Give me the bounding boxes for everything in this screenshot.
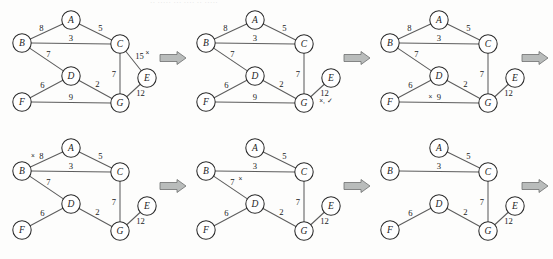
edge-AB [398,24,430,39]
edge-AC [447,24,479,40]
node-label-G: G [485,226,492,236]
edge-weight-BC: 3 [253,33,257,43]
edge-weight-DG: 2 [279,207,283,217]
edge-weight-AC: 5 [282,151,286,161]
step-arrow-2 [344,52,370,65]
edge-weight-AC: 5 [466,151,470,161]
edge-BC [399,171,479,172]
node-label-G: G [117,98,124,108]
edge-weight-BD: 7 [414,49,419,59]
edge-AB [214,24,246,39]
edge-weight-DG: 2 [463,79,467,89]
node-label-G: G [117,226,124,236]
edge-weight-FG: 9 [253,92,257,102]
node-label-C: C [301,39,308,49]
node-label-B: B [203,166,209,176]
edge-weight-BD: 7 [46,177,51,187]
node-label-A: A [435,143,442,153]
node-label-E: E [511,201,518,211]
node-label-A: A [435,15,442,25]
edge-weight-DG: 2 [95,79,99,89]
edge-AC [79,24,111,40]
step-arrow-1 [160,52,186,65]
edge-AC [263,24,295,40]
node-label-D: D [67,71,75,81]
node-label-E: E [327,201,334,211]
node-label-B: B [203,38,209,48]
edge-weight-EG: 12 [504,88,513,98]
node-label-B: B [19,166,25,176]
edge-FG [399,102,479,103]
node-label-G: G [301,226,308,236]
edge-weight-AB: 8 [39,151,43,161]
node-label-E: E [143,73,150,83]
node-label-E: E [511,73,518,83]
edge-weight-BC: 3 [253,161,257,171]
edge-AC [263,152,295,168]
edge-weight-DG: 2 [279,79,283,89]
edge-mark-AB: × [31,152,35,159]
node-label-C: C [485,167,492,177]
node-label-A: A [251,143,258,153]
node-label-A: A [251,15,258,25]
edge-weight-BC: 3 [437,33,441,43]
step-arrow-4 [160,180,186,193]
edge-weight-CG: 7 [480,69,485,79]
edge-weight-EG: 12 [136,216,145,226]
edge-weight-BC: 3 [69,161,73,171]
edge-AB [30,152,62,167]
node-label-C: C [301,167,308,177]
edge-BC [31,171,111,172]
edge-weight-BC: 3 [437,161,441,171]
edge-DF [398,208,431,225]
edge-mark-EG: ×, ✓ [319,97,333,104]
graph-panel-2: 8537762912×, ✓ABCDEFG [197,11,340,112]
node-label-D: D [67,199,75,209]
edge-weight-FG: 9 [69,92,73,102]
graph-panel-1: 853715×762912ABCDEFG [13,11,156,112]
node-label-F: F [386,97,393,107]
graph-panel-4: 8×53776212ABCDEFG [13,139,156,240]
node-label-F: F [386,225,393,235]
step-arrow-3 [522,52,548,65]
edge-weight-EG: 12 [504,216,513,226]
edge-BC [215,43,295,44]
edge-weight-AB: 8 [39,23,43,33]
node-label-A: A [67,143,74,153]
edge-weight-CG: 7 [296,197,301,207]
edge-weight-DF: 6 [40,80,45,90]
edge-weight-DF: 6 [40,208,45,218]
step-arrow-5 [344,180,370,193]
edge-DF [30,208,63,225]
edge-weight-BD: 7 [46,49,51,59]
node-label-D: D [435,71,443,81]
graph-panel-3: 85377629×12ABCDEFG [381,11,524,112]
node-label-C: C [117,167,124,177]
edge-weight-BD: 7 [230,177,235,187]
edge-weight-CG: 7 [112,197,117,207]
graph-panel-5: 537×76212ABCDEFG [197,139,340,240]
edge-weight-DG: 2 [463,207,467,217]
edge-weight-AB: 8 [223,23,227,33]
node-label-G: G [485,98,492,108]
node-label-D: D [251,199,259,209]
edge-weight-EG: 12 [320,216,329,226]
edge-BC [215,171,295,172]
node-label-F: F [18,97,25,107]
node-label-E: E [143,201,150,211]
node-label-F: F [202,97,209,107]
edge-weight-AB: 8 [407,23,411,33]
node-label-C: C [117,39,124,49]
node-label-E: E [327,73,334,83]
edge-BC [399,43,479,44]
node-label-G: G [301,98,308,108]
edge-DF [30,80,63,97]
edge-DF [214,80,247,97]
edge-FG [215,102,295,103]
edge-weight-AC: 5 [98,151,102,161]
edge-weight-AC: 5 [98,23,102,33]
edge-DF [214,208,247,225]
edge-AC [447,152,479,168]
graph-panel-6: 5376212ABCDEFG [381,139,524,240]
edge-weight-BD: 7 [230,49,235,59]
